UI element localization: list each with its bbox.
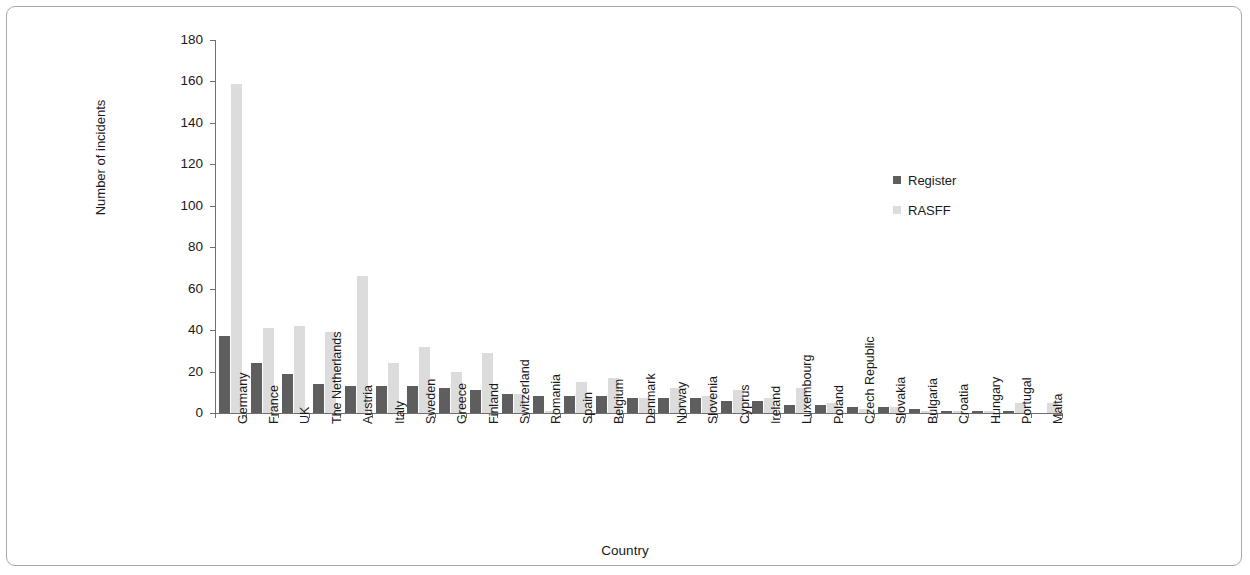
bar-register (533, 396, 544, 413)
x-tick-label: Italy (393, 401, 407, 424)
legend-label: RASFF (908, 203, 951, 218)
bar-register (972, 411, 983, 413)
bar-register (721, 401, 732, 413)
x-axis-title: Country (0, 543, 1250, 558)
y-tick-mark (210, 289, 215, 290)
legend-item: RASFF (893, 195, 956, 225)
legend-swatch-icon (893, 176, 901, 184)
y-tick-mark (210, 40, 215, 41)
x-tick-label: Croatia (957, 384, 971, 424)
x-tick-label: Switzerland (518, 359, 532, 424)
bar-register (439, 388, 450, 413)
legend-label: Register (908, 173, 956, 188)
x-tick-label: Poland (832, 385, 846, 424)
y-tick-label: 160 (163, 74, 203, 88)
bar-register (251, 363, 262, 413)
bar-register (596, 396, 607, 413)
bar-register (941, 411, 952, 413)
x-tick-label: Spain (581, 392, 595, 424)
y-tick-label: 120 (163, 157, 203, 171)
bar-register (847, 407, 858, 413)
bar-register (815, 405, 826, 413)
y-tick-mark (210, 372, 215, 373)
y-tick-label: 80 (163, 240, 203, 254)
bar-rasff (231, 84, 242, 413)
y-tick-label: 140 (163, 116, 203, 130)
x-tick-label: Luxembourg (800, 355, 814, 425)
bar-register (407, 386, 418, 413)
x-tick-label: The Netherlands (330, 332, 344, 424)
bar-register (784, 405, 795, 413)
x-tick-label: Portugal (1020, 377, 1034, 424)
legend-item: Register (893, 165, 956, 195)
bar-register (878, 407, 889, 413)
x-tick-label: Ireland (769, 386, 783, 424)
x-tick-label: Austria (361, 385, 375, 424)
bar-rasff (294, 326, 305, 413)
x-tick-label: Slovenia (706, 376, 720, 424)
y-tick-mark (210, 330, 215, 331)
bar-register (345, 386, 356, 413)
x-tick-label: Czech Republic (863, 336, 877, 424)
legend-swatch-icon (893, 206, 901, 214)
y-tick-label: 0 (163, 406, 203, 420)
bar-register (752, 401, 763, 413)
y-tick-label: 180 (163, 33, 203, 47)
x-tick-label: Sweden (424, 379, 438, 424)
y-tick-mark (210, 206, 215, 207)
x-tick-label: Bulgaria (926, 378, 940, 424)
y-tick-label: 100 (163, 199, 203, 213)
x-tick-label: Finland (487, 383, 501, 424)
x-tick-label: France (267, 385, 281, 424)
x-tick-label: UK (298, 407, 312, 424)
x-tick-label: Denmark (644, 373, 658, 424)
bar-register (690, 398, 701, 413)
y-axis-title: Number of incidents (93, 48, 108, 268)
x-tick-label: Romania (549, 374, 563, 424)
bar-register (219, 336, 230, 413)
bar-register (627, 398, 638, 413)
bar-register (1003, 411, 1014, 413)
bar-register (470, 390, 481, 413)
y-tick-mark (210, 123, 215, 124)
bar-register (282, 374, 293, 413)
x-tick-label: Malta (1051, 393, 1065, 424)
x-tick-label: Cyprus (738, 384, 752, 424)
y-tick-label: 20 (163, 365, 203, 379)
y-axis-line (215, 40, 216, 413)
bar-register (658, 398, 669, 413)
y-tick-label: 60 (163, 282, 203, 296)
x-tick-label: Slovakia (894, 377, 908, 424)
x-tick-label: Germany (236, 373, 250, 424)
bar-register (313, 384, 324, 413)
y-tick-mark (210, 247, 215, 248)
bar-register (564, 396, 575, 413)
y-tick-label: 40 (163, 323, 203, 337)
y-tick-mark (210, 81, 215, 82)
y-tick-mark (210, 164, 215, 165)
bar-register (909, 409, 920, 413)
chart-legend: RegisterRASFF (893, 165, 956, 225)
x-tick-mark (215, 413, 216, 418)
x-tick-label: Hungary (989, 377, 1003, 424)
x-tick-label: Norway (675, 382, 689, 424)
x-tick-label: Belgium (612, 379, 626, 424)
bar-chart: Number of incidents 02040608010012014016… (0, 0, 1250, 575)
bar-register (376, 386, 387, 413)
bar-register (502, 394, 513, 413)
x-tick-label: Greece (455, 383, 469, 424)
